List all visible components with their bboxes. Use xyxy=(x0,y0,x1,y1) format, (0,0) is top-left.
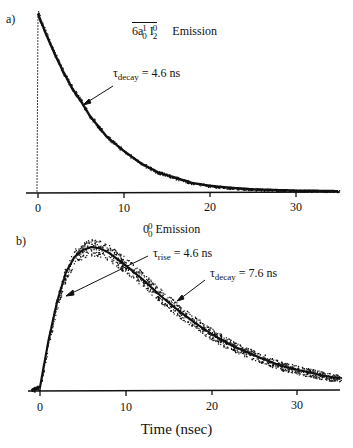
panel-a-x-axis xyxy=(26,192,340,198)
panel-b-tick-10: 10 xyxy=(120,400,132,415)
title-indices: 10 xyxy=(142,24,147,40)
x-axis-label: Time (nsec) xyxy=(0,421,353,438)
tau-value: = 4.6 ns xyxy=(174,246,212,260)
panel-a-tick-20: 20 xyxy=(204,200,216,215)
panel-b-title-suffix: Emission xyxy=(156,222,201,236)
panel-a-tick-10: 10 xyxy=(118,201,130,216)
panel-b-tau-rise-label: τrise = 4.6 ns xyxy=(153,246,212,262)
tau-subscript: rise xyxy=(158,252,171,262)
panel-a-letter: a) xyxy=(6,12,15,27)
panel-b-tau-decay-label: τdecay = 7.6 ns xyxy=(210,266,277,282)
title-sub: 0 xyxy=(148,230,153,238)
title-sub: 2 xyxy=(153,32,158,40)
panel-a-title: 6a10 I02 Emission xyxy=(132,24,217,40)
tau-value: = 7.6 ns xyxy=(239,266,277,280)
panel-b-decay-arrow xyxy=(177,280,205,301)
panel-b-tick-20: 20 xyxy=(206,399,218,414)
panel-a-title-suffix: Emission xyxy=(172,24,217,38)
title-sub: 0 xyxy=(142,32,147,40)
panel-b-title: 000 Emission xyxy=(143,222,200,238)
tau-value: = 4.6 ns xyxy=(142,66,180,80)
panel-a-decay-arrow xyxy=(83,86,113,105)
panel-a-title-transition: 6a10 I02 xyxy=(132,22,157,38)
panel-a-tick-0: 0 xyxy=(35,201,41,216)
tau-subscript: decay xyxy=(215,272,236,282)
panel-a-tick-30: 30 xyxy=(290,200,302,215)
panel-b-rise-arrow xyxy=(66,256,148,296)
tau-subscript: decay xyxy=(118,72,139,82)
panel-b-x-axis xyxy=(28,390,340,396)
panel-b-letter: b) xyxy=(16,234,26,249)
panel-b-tick-30: 30 xyxy=(291,398,303,413)
title-indices: 02 xyxy=(153,24,158,40)
panel-a-tau-decay-label: τdecay = 4.6 ns xyxy=(113,66,180,82)
title-indices: 00 xyxy=(148,222,153,238)
panel-b-tick-0: 0 xyxy=(37,400,43,415)
